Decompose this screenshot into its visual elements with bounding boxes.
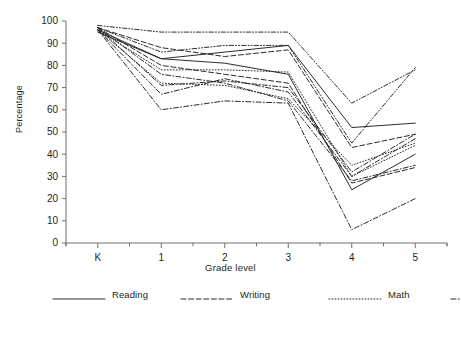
chart-container: 0102030405060708090100 K12345 Percentage… bbox=[0, 0, 461, 352]
y-tick-label: 70 bbox=[47, 82, 59, 93]
y-tick-label: 80 bbox=[47, 60, 59, 71]
series-line-drama bbox=[98, 30, 416, 165]
series-line-science bbox=[98, 28, 416, 172]
y-tick-label: 0 bbox=[52, 237, 58, 248]
legend-line-swatch bbox=[328, 290, 382, 300]
y-tick-label: 60 bbox=[47, 104, 59, 115]
legend-item-label: Math bbox=[388, 289, 410, 300]
legend-line-swatch bbox=[180, 290, 234, 300]
y-tick-label: 30 bbox=[47, 171, 59, 182]
legend-item-writing: Writing bbox=[180, 287, 328, 302]
legend-item-label: Writing bbox=[240, 289, 270, 300]
series-line-writing bbox=[98, 28, 416, 183]
y-axis-tick-labels: 0102030405060708090100 bbox=[41, 15, 58, 248]
legend-item-label: Reading bbox=[112, 289, 148, 300]
y-tick-label: 40 bbox=[47, 149, 59, 160]
y-axis-ticks bbox=[62, 21, 66, 243]
series-line-dance bbox=[98, 28, 416, 181]
series-line-physical-education bbox=[98, 25, 416, 103]
y-tick-label: 100 bbox=[41, 15, 58, 26]
series-line-computer bbox=[98, 30, 416, 230]
axis-lines bbox=[66, 21, 447, 243]
legend-line-swatch bbox=[450, 290, 461, 300]
data-series-lines bbox=[98, 25, 416, 229]
chart-legend: ReadingWritingMathScienceSocial studiesP… bbox=[52, 287, 450, 302]
y-tick-label: 20 bbox=[47, 193, 59, 204]
y-axis-title: Percentage bbox=[14, 69, 24, 149]
x-axis-ticks bbox=[66, 243, 447, 248]
x-axis-title: Grade level bbox=[0, 262, 461, 273]
legend-line-swatch bbox=[52, 290, 106, 300]
y-tick-label: 90 bbox=[47, 38, 59, 49]
legend-item-science: Science bbox=[450, 287, 461, 302]
y-tick-label: 10 bbox=[47, 215, 59, 226]
legend-item-reading: Reading bbox=[52, 287, 180, 302]
series-line-reading bbox=[98, 30, 416, 190]
y-tick-label: 50 bbox=[47, 126, 59, 137]
legend-item-math: Math bbox=[328, 287, 450, 302]
